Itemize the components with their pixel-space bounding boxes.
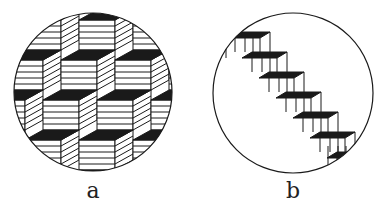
panel-b-label: b — [273, 178, 313, 204]
figure-canvas — [0, 0, 380, 212]
panel-a-label: a — [73, 178, 113, 204]
